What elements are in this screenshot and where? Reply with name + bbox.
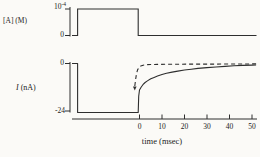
concentration-pulse-trace [72, 9, 257, 36]
x-tick-label: 0 [138, 122, 142, 131]
x-tick-label: 40 [226, 122, 234, 131]
current-trace-solid [72, 64, 256, 113]
x-tick-label: 10 [158, 122, 166, 131]
current-trace-dashed [135, 64, 256, 86]
x-tick-label: 30 [203, 122, 211, 131]
x-axis-ticks: 01020304050 [138, 115, 256, 131]
x-tick-label: 50 [248, 122, 256, 131]
bottom-y-axis [65, 62, 70, 113]
x-tick-label: 20 [181, 122, 189, 131]
figure: [A] (M) 10-4 0 I (nA) 0 -24 time (msec) … [0, 0, 260, 157]
top-y-axis [65, 7, 70, 37]
down-arrowhead-icon [133, 86, 137, 90]
chart-canvas: 01020304050 [0, 0, 260, 157]
